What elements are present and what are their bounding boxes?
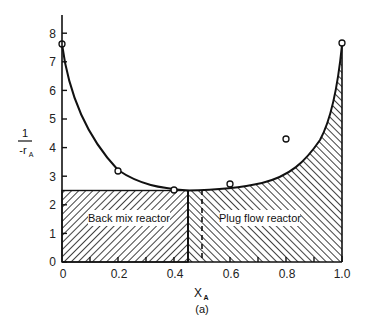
y-axis-label: 1 -r A: [18, 127, 34, 158]
svg-text:1: 1: [22, 127, 28, 139]
plug-flow-region: [188, 45, 342, 262]
chart: 0 1 2 3 4 5 6 7 8 0 0.2 0.4 0.6 0.8 1.0 …: [0, 0, 368, 335]
svg-text:A: A: [29, 151, 34, 158]
svg-text:-r: -r: [19, 144, 27, 156]
svg-text:X: X: [194, 286, 202, 300]
x-tick-0.8: 0.8: [279, 267, 296, 281]
y-tick-5: 5: [49, 112, 56, 126]
y-tick-1: 1: [49, 227, 56, 241]
x-tick-1.0: 1.0: [334, 267, 351, 281]
back-mix-label: Back mix reactor: [88, 212, 170, 224]
x-tick-0: 0: [60, 267, 67, 281]
back-mix-region: [62, 191, 188, 263]
y-tick-3: 3: [49, 170, 56, 184]
y-tick-0: 0: [49, 255, 56, 269]
caption: (a): [195, 303, 208, 315]
x-tick-0.2: 0.2: [111, 267, 128, 281]
y-tick-4: 4: [49, 141, 56, 155]
y-tick-8: 8: [49, 27, 56, 41]
y-tick-7: 7: [49, 55, 56, 69]
x-tick-0.4: 0.4: [167, 267, 184, 281]
plug-flow-label: Plug flow reactor: [219, 212, 301, 224]
y-tick-2: 2: [49, 198, 56, 212]
y-tick-6: 6: [49, 84, 56, 98]
x-tick-0.6: 0.6: [223, 267, 240, 281]
svg-text:A: A: [203, 294, 208, 301]
x-axis-label: X A: [194, 286, 209, 301]
